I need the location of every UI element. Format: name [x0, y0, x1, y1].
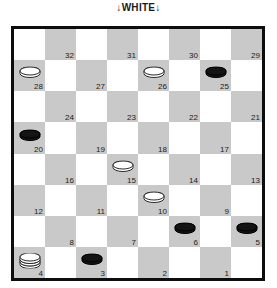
board-square-light-r6c4: [138, 216, 169, 247]
square-number-label: 20: [34, 145, 43, 154]
square-number-label: 30: [189, 51, 198, 60]
square-number-label: 3: [101, 269, 105, 278]
board-square-light-r2c2: [76, 91, 107, 122]
board-square-29[interactable]: 29: [231, 29, 262, 60]
board-square-3[interactable]: 3: [76, 247, 107, 278]
board-square-light-r5c5: [169, 185, 200, 216]
square-number-label: 16: [65, 176, 74, 185]
board-square-light-r7c5: [169, 247, 200, 278]
board-square-light-r6c0: [14, 216, 45, 247]
board-square-21[interactable]: 21: [231, 91, 262, 122]
board-square-light-r3c1: [45, 122, 76, 153]
square-number-label: 15: [127, 176, 136, 185]
side-to-move-caption: ↓WHITE↓: [0, 2, 277, 13]
board-square-light-r2c6: [200, 91, 231, 122]
board-square-16[interactable]: 16: [45, 154, 76, 185]
square-number-label: 32: [65, 51, 74, 60]
board-square-30[interactable]: 30: [169, 29, 200, 60]
board-square-9[interactable]: 9: [200, 185, 231, 216]
board-square-4[interactable]: 4: [14, 247, 45, 278]
white-man-piece-icon[interactable]: [19, 67, 41, 82]
board-square-8[interactable]: 8: [45, 216, 76, 247]
white-man-piece-icon[interactable]: [112, 160, 134, 175]
board-square-2[interactable]: 2: [138, 247, 169, 278]
board-grid: 3231302928272625242322212019181716151413…: [14, 29, 262, 278]
black-man-piece-icon[interactable]: [205, 67, 227, 82]
checkers-board[interactable]: 3231302928272625242322212019181716151413…: [11, 26, 265, 281]
board-square-17[interactable]: 17: [200, 122, 231, 153]
board-square-light-r0c0: [14, 29, 45, 60]
square-number-label: 12: [34, 207, 43, 216]
board-square-26[interactable]: 26: [138, 60, 169, 91]
board-square-12[interactable]: 12: [14, 185, 45, 216]
board-square-7[interactable]: 7: [107, 216, 138, 247]
board-square-light-r4c6: [200, 154, 231, 185]
square-number-label: 28: [34, 82, 43, 91]
board-square-light-r0c6: [200, 29, 231, 60]
board-square-18[interactable]: 18: [138, 122, 169, 153]
square-number-label: 18: [158, 145, 167, 154]
square-number-label: 14: [189, 176, 198, 185]
board-square-light-r5c3: [107, 185, 138, 216]
square-number-label: 21: [251, 113, 260, 122]
board-square-light-r3c7: [231, 122, 262, 153]
white-man-piece-icon[interactable]: [143, 191, 165, 206]
board-square-light-r5c1: [45, 185, 76, 216]
board-square-20[interactable]: 20: [14, 122, 45, 153]
square-number-label: 26: [158, 82, 167, 91]
square-number-label: 11: [97, 207, 105, 216]
board-square-28[interactable]: 28: [14, 60, 45, 91]
square-number-label: 22: [189, 113, 198, 122]
board-square-22[interactable]: 22: [169, 91, 200, 122]
black-man-piece-icon[interactable]: [19, 129, 41, 144]
square-number-label: 5: [256, 238, 260, 247]
square-number-label: 1: [225, 269, 229, 278]
board-square-19[interactable]: 19: [76, 122, 107, 153]
board-square-light-r1c1: [45, 60, 76, 91]
board-square-11[interactable]: 11: [76, 185, 107, 216]
square-number-label: 27: [96, 82, 105, 91]
square-number-label: 6: [194, 238, 198, 247]
square-number-label: 7: [132, 238, 136, 247]
board-square-1[interactable]: 1: [200, 247, 231, 278]
black-man-piece-icon[interactable]: [236, 223, 258, 238]
board-square-light-r4c0: [14, 154, 45, 185]
board-square-light-r6c2: [76, 216, 107, 247]
square-number-label: 31: [127, 51, 136, 60]
square-number-label: 9: [225, 207, 229, 216]
board-square-6[interactable]: 6: [169, 216, 200, 247]
square-number-label: 24: [65, 113, 74, 122]
board-square-light-r0c2: [76, 29, 107, 60]
board-square-31[interactable]: 31: [107, 29, 138, 60]
board-square-15[interactable]: 15: [107, 154, 138, 185]
board-square-light-r1c3: [107, 60, 138, 91]
board-square-23[interactable]: 23: [107, 91, 138, 122]
board-square-light-r3c5: [169, 122, 200, 153]
black-man-piece-icon[interactable]: [174, 223, 196, 238]
board-square-light-r6c6: [200, 216, 231, 247]
board-square-14[interactable]: 14: [169, 154, 200, 185]
board-square-light-r1c7: [231, 60, 262, 91]
board-square-27[interactable]: 27: [76, 60, 107, 91]
board-square-13[interactable]: 13: [231, 154, 262, 185]
square-number-label: 4: [39, 269, 43, 278]
square-number-label: 23: [127, 113, 136, 122]
board-square-24[interactable]: 24: [45, 91, 76, 122]
square-number-label: 8: [70, 238, 74, 247]
white-man-piece-icon[interactable]: [143, 67, 165, 82]
square-number-label: 29: [251, 51, 260, 60]
board-square-10[interactable]: 10: [138, 185, 169, 216]
board-square-light-r2c0: [14, 91, 45, 122]
board-square-25[interactable]: 25: [200, 60, 231, 91]
board-square-5[interactable]: 5: [231, 216, 262, 247]
square-number-label: 10: [158, 207, 167, 216]
board-square-light-r2c4: [138, 91, 169, 122]
board-square-light-r4c2: [76, 154, 107, 185]
square-number-label: 13: [251, 176, 260, 185]
board-square-light-r7c7: [231, 247, 262, 278]
square-number-label: 25: [220, 82, 229, 91]
black-man-piece-icon[interactable]: [81, 254, 103, 269]
board-square-32[interactable]: 32: [45, 29, 76, 60]
white-king-piece-icon[interactable]: [19, 254, 41, 269]
board-square-light-r4c4: [138, 154, 169, 185]
